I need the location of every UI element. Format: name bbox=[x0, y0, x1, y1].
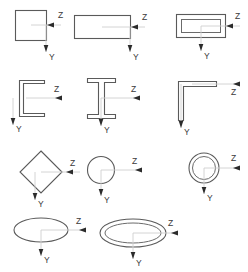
shape-rectangle: Z Y bbox=[75, 12, 148, 62]
rectangle-z-label: Z bbox=[142, 12, 147, 22]
channel-y-label: Y bbox=[16, 124, 22, 134]
shape-circular-tube: Z Y bbox=[189, 153, 240, 203]
channel-z-label: Z bbox=[54, 84, 59, 94]
i-beam-y-label: Y bbox=[104, 125, 110, 135]
shape-channel: Z Y bbox=[11, 81, 62, 135]
i-beam-z-label: Z bbox=[131, 84, 136, 94]
square-z-label: Z bbox=[58, 10, 63, 20]
square-z-arrowhead bbox=[47, 23, 54, 28]
circular-tube-z-label: Z bbox=[231, 153, 236, 163]
circle-z-arrowhead bbox=[135, 168, 142, 173]
rectangle-z-arrowhead bbox=[131, 25, 138, 30]
circular-tube-z-arrowhead bbox=[233, 166, 240, 171]
elliptical-tube-z-arrowhead bbox=[171, 231, 178, 236]
ellipse-z-label: Z bbox=[76, 216, 81, 226]
angle-y-arrowhead bbox=[179, 121, 184, 128]
angle-y-label: Y bbox=[184, 127, 190, 137]
circle-z-label: Z bbox=[132, 156, 137, 166]
elliptical-tube-y-label: Y bbox=[136, 258, 142, 268]
i-beam-z-arrowhead bbox=[133, 96, 140, 101]
elliptical-tube-z-label: Z bbox=[168, 218, 173, 228]
circular-tube-y-label: Y bbox=[207, 193, 213, 203]
shape-angle: Z Y bbox=[179, 82, 241, 138]
angle-z-label: Z bbox=[231, 87, 236, 97]
channel-z-arrowhead bbox=[55, 96, 62, 101]
circle-y-arrowhead bbox=[99, 189, 104, 196]
shape-ellipse: Z Y bbox=[14, 216, 86, 265]
diamond-y-arrowhead bbox=[33, 193, 38, 200]
square-y-arrowhead bbox=[44, 45, 49, 52]
square-outline bbox=[16, 11, 47, 41]
circular-tube-y-arrowhead bbox=[202, 187, 207, 194]
ellipse-y-label: Y bbox=[44, 255, 50, 265]
shape-square: Z Y bbox=[16, 10, 64, 62]
diamond-z-arrowhead bbox=[66, 170, 73, 175]
rectangular-tube-y-label: Y bbox=[204, 51, 210, 61]
shape-rectangular-tube: Z Y bbox=[177, 11, 241, 61]
rectangle-y-label: Y bbox=[133, 52, 139, 62]
shape-diamond: Z Y bbox=[20, 151, 80, 209]
rectangular-tube-z-label: Z bbox=[235, 11, 240, 21]
circle-y-label: Y bbox=[104, 195, 110, 205]
rectangle-y-arrowhead bbox=[128, 45, 133, 52]
shape-circle: Z Y bbox=[88, 156, 143, 205]
elliptical-tube-y-arrowhead bbox=[131, 252, 136, 259]
channel-y-arrowhead bbox=[11, 118, 16, 125]
cross-section-profiles-diagram: Z Y Z Y Z Y Z Y Z bbox=[0, 0, 248, 272]
shape-elliptical-tube: Z Y bbox=[100, 218, 178, 268]
i-beam-outline bbox=[88, 79, 116, 119]
diamond-y-label: Y bbox=[38, 199, 44, 209]
angle-z-arrowhead bbox=[233, 82, 240, 87]
square-y-label: Y bbox=[49, 52, 55, 62]
channel-outline bbox=[20, 81, 45, 117]
i-beam-y-arrowhead bbox=[99, 119, 104, 126]
shape-i-beam: Z Y bbox=[88, 79, 141, 136]
ellipse-z-arrowhead bbox=[79, 228, 86, 233]
angle-outline bbox=[179, 82, 217, 121]
rectangular-tube-y-arrowhead bbox=[199, 44, 204, 51]
diamond-z-label: Z bbox=[70, 158, 75, 168]
ellipse-y-arrowhead bbox=[39, 249, 44, 256]
rectangular-tube-z-arrowhead bbox=[226, 24, 233, 29]
